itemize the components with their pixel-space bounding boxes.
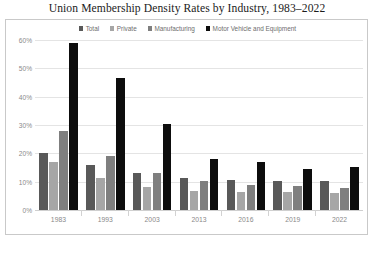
legend-swatch-icon [79, 26, 83, 30]
chart-legend: TotalPrivateManufacturingMotor Vehicle a… [6, 25, 369, 32]
bar-group-1993 [82, 40, 129, 210]
legend-item-motor-vehicle-and-equipment[interactable]: Motor Vehicle and Equipment [206, 25, 296, 32]
legend-label: Total [86, 25, 100, 32]
y-axis-tick-label: 20% [19, 150, 32, 157]
legend-item-manufacturing[interactable]: Manufacturing [148, 25, 195, 32]
bar-motor-vehicle-and-equipment-1983[interactable] [69, 43, 78, 210]
bar-manufacturing-1993[interactable] [106, 156, 115, 210]
bar-group-2019 [269, 40, 316, 210]
x-axis-tick-label-1993: 1993 [82, 216, 129, 223]
bar-total-2016[interactable] [227, 180, 236, 210]
legend-item-private[interactable]: Private [110, 25, 137, 32]
legend-swatch-icon [206, 26, 210, 30]
bar-total-1993[interactable] [86, 165, 95, 210]
legend-label: Manufacturing [154, 25, 195, 32]
y-axis-tick-label: 0% [22, 207, 32, 214]
x-axis-tick-label-2016: 2016 [222, 216, 269, 223]
bar-group-1983 [35, 40, 82, 210]
y-axis-tick-label: 40% [19, 93, 32, 100]
bar-private-2013[interactable] [190, 191, 199, 210]
bar-total-1983[interactable] [39, 153, 48, 210]
gridline-0% [35, 210, 363, 211]
bar-groups [35, 40, 363, 210]
bar-manufacturing-2013[interactable] [200, 181, 209, 210]
plot-frame: TotalPrivateManufacturingMotor Vehicle a… [5, 19, 368, 235]
legend-swatch-icon [110, 26, 114, 30]
bar-total-2013[interactable] [180, 178, 189, 210]
bar-motor-vehicle-and-equipment-2013[interactable] [210, 159, 219, 210]
bar-manufacturing-2016[interactable] [247, 185, 256, 211]
bar-manufacturing-2003[interactable] [153, 173, 162, 210]
bar-total-2003[interactable] [133, 173, 142, 210]
bar-motor-vehicle-and-equipment-2016[interactable] [257, 162, 266, 210]
bar-private-2016[interactable] [237, 192, 246, 210]
bar-manufacturing-2019[interactable] [293, 186, 302, 210]
y-axis-tick-label: 10% [19, 178, 32, 185]
chart-figure: Union Membership Density Rates by Indust… [0, 0, 374, 259]
x-axis-tick-label-1983: 1983 [35, 216, 82, 223]
y-axis-tick-label: 60% [19, 37, 32, 44]
chart-title: Union Membership Density Rates by Indust… [0, 2, 374, 15]
bar-group-2003 [129, 40, 176, 210]
x-axis-labels: 1983199320032013201620192022 [35, 216, 363, 223]
x-axis-tick-label-2003: 2003 [129, 216, 176, 223]
legend-swatch-icon [148, 26, 152, 30]
bar-group-2016 [222, 40, 269, 210]
bar-private-2019[interactable] [283, 192, 292, 210]
bar-manufacturing-2022[interactable] [340, 188, 349, 210]
y-axis-tick-label: 50% [19, 65, 32, 72]
bar-total-2019[interactable] [273, 181, 282, 210]
bar-private-1983[interactable] [49, 162, 58, 210]
legend-item-total[interactable]: Total [79, 25, 99, 32]
bar-motor-vehicle-and-equipment-2003[interactable] [163, 124, 172, 210]
bar-private-2022[interactable] [330, 193, 339, 210]
bar-private-2003[interactable] [143, 187, 152, 210]
bar-motor-vehicle-and-equipment-2019[interactable] [303, 169, 312, 210]
x-axis-tick-label-2013: 2013 [176, 216, 223, 223]
x-axis-tick-label-2019: 2019 [269, 216, 316, 223]
bar-motor-vehicle-and-equipment-2022[interactable] [350, 167, 359, 210]
x-axis-tick-label-2022: 2022 [316, 216, 363, 223]
bar-group-2013 [176, 40, 223, 210]
y-axis-labels: 0%10%20%30%40%50%60% [11, 40, 32, 210]
legend-label: Motor Vehicle and Equipment [213, 25, 296, 32]
bar-group-2022 [316, 40, 363, 210]
bar-manufacturing-1983[interactable] [59, 131, 68, 210]
y-axis-tick-label: 30% [19, 122, 32, 129]
legend-label: Private [117, 25, 137, 32]
bar-private-1993[interactable] [96, 178, 105, 210]
bar-total-2022[interactable] [320, 181, 329, 210]
bar-motor-vehicle-and-equipment-1993[interactable] [116, 78, 125, 210]
